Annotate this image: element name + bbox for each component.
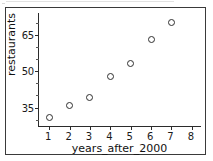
y-axis-tick-label: 50 — [22, 66, 34, 77]
y-axis-tick — [35, 71, 39, 72]
top-crop-artifact — [6, 1, 174, 2]
y-axis-tick-label: 35 — [22, 102, 34, 113]
x-axis-tick-label: 8 — [188, 131, 194, 142]
top-crop-artifact-secondary — [2, 3, 5, 4]
x-axis-tick-label: 3 — [86, 131, 92, 142]
y-axis-title: restaurants — [5, 10, 18, 80]
x-axis-tick-label: 2 — [65, 131, 71, 142]
x-axis-title: years_after_2000 — [38, 142, 201, 155]
y-axis-tick — [35, 35, 39, 36]
y-axis-minor-tick — [36, 23, 39, 24]
y-axis-tick-label: 65 — [22, 29, 34, 40]
y-axis-minor-tick — [36, 47, 39, 48]
x-axis-tick — [90, 126, 91, 130]
y-axis-tick — [35, 108, 39, 109]
x-axis-tick — [70, 126, 71, 130]
y-axis-minor-tick — [36, 83, 39, 84]
x-axis-tick-label: 7 — [167, 131, 173, 142]
x-axis-tick — [171, 126, 172, 130]
data-point — [168, 19, 175, 26]
plot-area — [38, 13, 201, 127]
x-axis-tick — [110, 126, 111, 130]
data-point — [66, 102, 73, 109]
y-axis-minor-tick — [36, 59, 39, 60]
x-axis-tick — [49, 126, 50, 130]
data-point — [86, 94, 93, 101]
x-axis-tick-label: 1 — [45, 131, 51, 142]
chart-screenshot: 355065 12345678 years_after_2000 restaur… — [0, 0, 213, 161]
data-point — [107, 73, 114, 80]
x-axis-tick-label: 5 — [127, 131, 133, 142]
data-point — [148, 36, 155, 43]
y-axis-minor-tick — [36, 95, 39, 96]
data-point — [46, 114, 53, 121]
data-points-layer — [39, 13, 201, 126]
data-point — [127, 60, 134, 67]
x-axis-tick — [192, 126, 193, 130]
x-axis-tick-label: 4 — [106, 131, 112, 142]
y-axis-minor-tick — [36, 120, 39, 121]
x-axis-tick — [151, 126, 152, 130]
x-axis-tick — [131, 126, 132, 130]
x-axis-tick-label: 6 — [147, 131, 153, 142]
